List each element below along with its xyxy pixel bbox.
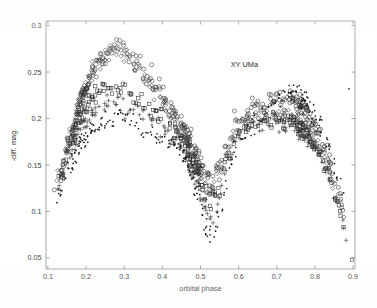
data-point — [126, 114, 128, 116]
data-point — [83, 135, 85, 137]
data-point — [218, 216, 220, 218]
data-point — [65, 177, 67, 179]
data-point — [305, 100, 307, 102]
data-point — [56, 202, 58, 204]
data-point — [302, 94, 304, 96]
data-point — [194, 194, 196, 196]
data-point — [206, 218, 208, 220]
light-curve-figure: 0.10.20.30.40.50.60.70.80.90.050.10.150.… — [0, 0, 377, 308]
data-point — [152, 126, 154, 128]
data-point — [288, 96, 290, 98]
y-tick-label-4: 0.25 — [28, 68, 42, 77]
y-tick-label-1: 0.1 — [32, 207, 42, 216]
data-point — [173, 141, 175, 143]
data-point — [199, 194, 201, 196]
data-point — [300, 89, 302, 91]
data-point — [189, 169, 191, 171]
data-point — [80, 147, 82, 149]
x-tick-label-4: 0.5 — [196, 272, 206, 281]
data-point — [156, 142, 158, 144]
data-point — [82, 140, 84, 142]
data-point — [100, 118, 102, 120]
data-point — [143, 136, 145, 138]
data-point — [336, 179, 338, 181]
data-point — [147, 132, 149, 134]
data-point — [205, 227, 207, 229]
y-axis-label: -diff. mag. — [9, 129, 18, 162]
data-point — [176, 147, 178, 149]
data-point — [95, 129, 97, 131]
data-point — [260, 121, 262, 123]
data-point — [313, 104, 315, 106]
data-point — [294, 101, 296, 103]
x-tick-label-0: 0.1 — [43, 272, 53, 281]
data-point — [206, 235, 208, 237]
data-point — [315, 115, 317, 117]
data-point — [63, 176, 65, 178]
data-point — [209, 229, 211, 231]
data-point — [85, 145, 87, 147]
data-point — [210, 225, 212, 227]
data-point — [326, 137, 328, 139]
data-point — [192, 177, 194, 179]
data-point — [159, 142, 161, 144]
data-point — [122, 119, 124, 121]
data-point — [109, 119, 111, 121]
data-point — [71, 153, 73, 155]
data-point — [191, 178, 193, 180]
data-point — [142, 132, 144, 134]
data-point — [156, 137, 158, 139]
data-point — [174, 143, 176, 145]
data-point — [59, 195, 61, 197]
data-point — [288, 85, 290, 87]
data-point — [83, 142, 85, 144]
data-point — [334, 163, 336, 165]
data-point — [280, 105, 282, 107]
data-point — [205, 234, 207, 236]
data-point — [105, 111, 107, 113]
data-point — [318, 125, 320, 127]
data-point — [225, 180, 227, 182]
data-point — [197, 198, 199, 200]
data-point — [241, 138, 243, 140]
y-tick-label-5: 0.3 — [32, 21, 42, 30]
data-point — [298, 98, 300, 100]
data-point — [223, 194, 225, 196]
data-point — [279, 94, 281, 96]
data-point — [235, 156, 237, 158]
data-point — [198, 182, 200, 184]
data-point — [113, 125, 115, 127]
data-point — [333, 172, 335, 174]
data-point — [231, 164, 233, 166]
x-tick-label-5: 0.6 — [234, 272, 244, 281]
data-point — [187, 166, 189, 168]
data-point — [114, 113, 116, 115]
data-point — [329, 143, 331, 145]
data-point — [117, 113, 119, 115]
data-point — [198, 189, 200, 191]
data-point — [71, 167, 73, 169]
data-point — [168, 140, 170, 142]
data-point — [328, 148, 330, 150]
data-point — [341, 194, 343, 196]
data-point — [168, 146, 170, 148]
data-point — [176, 137, 178, 139]
data-point — [308, 109, 310, 111]
data-point — [340, 178, 342, 180]
data-point — [70, 172, 72, 174]
data-point — [106, 123, 108, 125]
data-point — [179, 149, 181, 151]
data-point — [213, 236, 215, 238]
data-point — [74, 160, 76, 162]
data-point — [93, 124, 95, 126]
data-point — [194, 173, 196, 175]
data-point — [138, 128, 140, 130]
data-point — [94, 130, 96, 132]
data-point — [321, 119, 323, 121]
data-point — [296, 86, 298, 88]
data-point — [320, 132, 322, 134]
data-point — [197, 185, 199, 187]
data-point — [85, 139, 87, 141]
data-point — [272, 102, 274, 104]
data-point — [306, 96, 308, 98]
